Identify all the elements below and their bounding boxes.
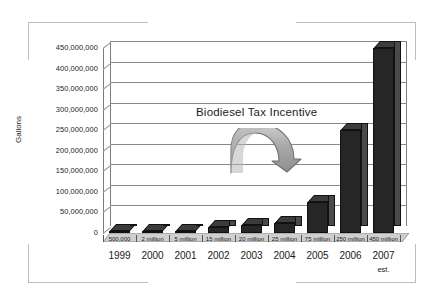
x-axis-year-label: 2004	[268, 250, 301, 261]
bar	[109, 224, 129, 233]
bar	[208, 220, 228, 233]
x-axis-tick-mark	[301, 235, 302, 242]
data-value-label: 500,000	[103, 236, 136, 242]
x-axis-tick-mark	[334, 235, 335, 242]
bar	[241, 218, 261, 233]
x-axis-year-label: 2000	[136, 250, 169, 261]
x-axis-year-label: 2005	[301, 250, 334, 261]
bar	[340, 123, 360, 233]
data-value-label: 15 million	[202, 236, 235, 242]
x-axis-year-label: 2002	[202, 250, 235, 261]
data-value-label: 5 million	[169, 236, 202, 242]
x-axis-tick-mark	[268, 235, 269, 242]
x-axis-tick-mark	[169, 235, 170, 242]
bar-front-face	[241, 225, 261, 233]
data-value-label: 2 million	[136, 236, 169, 242]
bar-side-face	[262, 218, 269, 226]
x-axis-tick-mark	[136, 235, 137, 242]
bar	[142, 224, 162, 233]
bar-side-face	[328, 195, 335, 226]
x-axis-year-label: 2006	[334, 250, 367, 261]
bar	[307, 195, 327, 233]
data-value-label: 450 million	[367, 236, 400, 242]
bar-front-face	[175, 231, 195, 233]
bar-front-face	[373, 48, 393, 233]
data-value-label: 75 million	[301, 236, 334, 242]
data-value-label: 25 million	[268, 236, 301, 242]
bar-side-face	[295, 216, 302, 226]
bar-front-face	[208, 227, 228, 233]
x-axis-tick-mark	[400, 235, 401, 242]
bar-front-face	[340, 130, 360, 233]
x-axis-tick-mark	[202, 235, 203, 242]
x-axis-year-label: 2007	[367, 250, 400, 261]
bar	[175, 224, 195, 233]
x-axis-year-label: 2003	[235, 250, 268, 261]
data-value-label: 250 million	[334, 236, 367, 242]
annotation-label: Biodiesel Tax Incentive	[196, 106, 317, 118]
bar-side-face	[394, 41, 401, 226]
x-axis-tick-mark	[235, 235, 236, 242]
x-axis-year-label: 2001	[169, 250, 202, 261]
bar-side-face	[361, 123, 368, 226]
bar-front-face	[142, 231, 162, 233]
data-value-label: 20 million	[235, 236, 268, 242]
bar-front-face	[109, 231, 129, 233]
bar	[373, 41, 393, 233]
bar-front-face	[307, 202, 327, 233]
bar-side-face	[163, 224, 170, 226]
x-axis-tick-mark	[367, 235, 368, 242]
x-axis-year-label: 1999	[103, 250, 136, 261]
curved-arch-arrow-icon	[228, 128, 314, 174]
bar-side-face	[196, 224, 203, 226]
bar-side-face	[130, 224, 137, 226]
bar-front-face	[274, 223, 294, 233]
bar	[274, 216, 294, 233]
chart-figure: 050,000,000100,000,000150,000,000200,000…	[0, 0, 444, 304]
x-axis-tick-mark	[103, 235, 104, 242]
x-axis-estimate-note: est.	[367, 265, 400, 274]
bar-side-face	[229, 220, 236, 226]
